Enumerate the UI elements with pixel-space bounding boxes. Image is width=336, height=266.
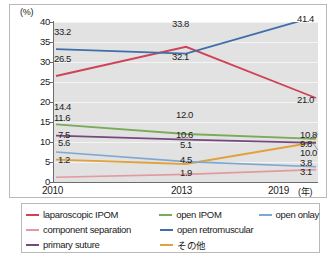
legend-label-primary-suture: primary suture [43, 239, 100, 250]
y-tick-10: 10 [14, 137, 50, 146]
value-label-2013-open-ipom: 12.0 [176, 110, 193, 120]
value-label-2013-component-separation: 1.9 [180, 168, 192, 178]
legend-swatch-primary-suture [26, 244, 39, 246]
value-label-2010-primary-suture: 11.6 [54, 113, 70, 123]
value-label-2010-component-separation: 1.2 [58, 155, 70, 165]
y-tick-35: 35 [14, 37, 50, 46]
legend-item-open-retromuscular[interactable]: open retromuscular [160, 224, 260, 235]
legend-label-sonota: その他 [177, 238, 206, 252]
y-axis-tick-labels: 40 35 30 25 20 15 10 5 0 [10, 5, 50, 199]
value-label-2019-component-separation: 3.1 [300, 167, 312, 177]
value-label-2010-laparoscopic-ipom: 26.5 [54, 54, 71, 64]
x-tick-2013: 2013 [171, 185, 192, 196]
chart-panel: (%) 40 35 30 25 20 15 [9, 4, 327, 198]
value-label-2010-open-ipom: 14.4 [54, 102, 71, 112]
x-axis-unit-label: (年) [298, 185, 312, 198]
x-tick-2010: 2010 [42, 185, 63, 196]
legend-label-component-separation: component separation [43, 224, 131, 235]
legend-item-open-onlay[interactable]: open onlay [259, 209, 319, 220]
legend-label-open-ipom: open IPOM [176, 209, 221, 220]
value-label-2013-sonota: 4.5 [180, 155, 192, 165]
legend-item-laparoscopic-ipom[interactable]: laparoscopic IPOM [26, 209, 159, 220]
y-tick-25: 25 [14, 77, 50, 86]
y-tick-20: 20 [14, 97, 50, 106]
y-tick-5: 5 [14, 157, 50, 166]
legend-swatch-laparoscopic-ipom [26, 214, 39, 216]
y-tick-40: 40 [14, 17, 50, 26]
value-label-2019-open-retromuscular: 41.4 [297, 14, 314, 24]
value-label-2013-laparoscopic-ipom: 33.8 [172, 19, 189, 29]
legend-swatch-open-retromuscular [160, 229, 173, 231]
legend-row-1: laparoscopic IPOM open IPOM open onlay [26, 207, 319, 222]
value-label-2010-sonota: 5.6 [58, 138, 70, 148]
legend-item-sonota[interactable]: その他 [160, 238, 260, 252]
legend-swatch-component-separation [26, 229, 39, 231]
legend-row-3: primary suture その他 [26, 237, 319, 252]
legend-row-2: component separation open retromuscular [26, 222, 319, 237]
legend-label-open-retromuscular: open retromuscular [177, 224, 253, 235]
value-label-2010-open-retromuscular: 33.2 [54, 27, 71, 37]
legend-label-laparoscopic-ipom: laparoscopic IPOM [43, 209, 118, 220]
x-tick-2019: 2019 [268, 185, 289, 196]
y-tick-15: 15 [14, 117, 50, 126]
y-tick-30: 30 [14, 57, 50, 66]
legend-swatch-open-onlay [259, 214, 272, 216]
legend-item-primary-suture[interactable]: primary suture [26, 239, 160, 250]
chart-legend: laparoscopic IPOM open IPOM open onlay c… [21, 203, 320, 253]
chart-figure: (%) 40 35 30 25 20 15 [0, 0, 336, 266]
legend-item-open-ipom[interactable]: open IPOM [159, 209, 258, 220]
value-label-2019-laparoscopic-ipom: 21.0 [297, 95, 314, 105]
legend-item-component-separation[interactable]: component separation [26, 224, 160, 235]
value-label-2013-open-onlay: 5.1 [180, 140, 192, 150]
legend-label-open-onlay: open onlay [276, 209, 319, 220]
legend-swatch-open-ipom [159, 214, 172, 216]
x-axis-line [53, 182, 318, 183]
y-tick-mark-0 [50, 182, 54, 183]
value-label-2013-open-retromuscular: 32.1 [172, 52, 189, 62]
legend-swatch-sonota [160, 244, 173, 246]
